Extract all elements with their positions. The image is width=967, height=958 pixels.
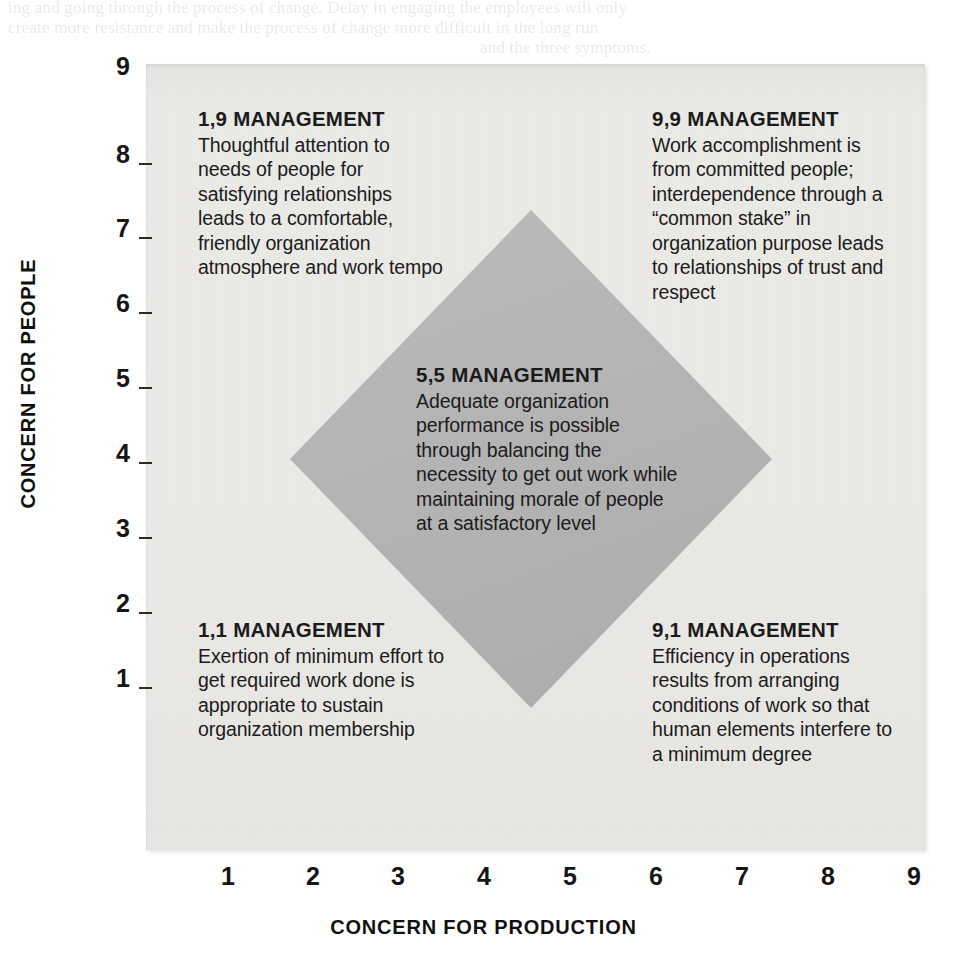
quadrant-5-5-heading: 5,5 MANAGEMENT xyxy=(416,362,684,388)
quadrant-9-9: 9,9 MANAGEMENT Work accomplishment is fr… xyxy=(652,106,902,304)
y-tick-label: 3 xyxy=(104,514,130,543)
quadrant-9-1-body: Efficiency in operations results from ar… xyxy=(652,644,902,766)
y-tick-label: 5 xyxy=(104,364,130,393)
x-tick-label: 6 xyxy=(643,862,669,891)
showthrough-line: ing and going through the process of cha… xyxy=(8,0,627,18)
quadrant-9-1-heading: 9,1 MANAGEMENT xyxy=(652,617,902,643)
y-tick-label: 8 xyxy=(104,140,130,169)
x-tick-label: 9 xyxy=(901,862,927,891)
x-tick-label: 8 xyxy=(815,862,841,891)
x-tick-label: 3 xyxy=(385,862,411,891)
y-tick-label: 4 xyxy=(104,439,130,468)
showthrough-line: create more resistance and make the proc… xyxy=(8,18,598,38)
quadrant-1-1-heading: 1,1 MANAGEMENT xyxy=(198,617,448,643)
y-tick-label: 9 xyxy=(104,52,130,81)
showthrough-line: and the three symptoms. xyxy=(480,38,651,58)
x-axis-title: CONCERN FOR PRODUCTION xyxy=(0,916,967,939)
quadrant-1-1-body: Exertion of minimum effort to get requir… xyxy=(198,644,448,742)
y-tick-label: 1 xyxy=(104,664,130,693)
quadrant-5-5: 5,5 MANAGEMENT Adequate organization per… xyxy=(416,362,684,536)
x-tick-label: 7 xyxy=(729,862,755,891)
y-tick-mark xyxy=(139,462,152,464)
quadrant-1-9-body: Thoughtful attention to needs of people … xyxy=(198,133,443,280)
x-tick-label: 4 xyxy=(471,862,497,891)
quadrant-5-5-body: Adequate organization performance is pos… xyxy=(416,389,684,536)
y-tick-label: 6 xyxy=(104,289,130,318)
quadrant-1-1: 1,1 MANAGEMENT Exertion of minimum effor… xyxy=(198,617,448,742)
y-tick-mark xyxy=(139,237,152,239)
quadrant-9-9-body: Work accomplishment is from committed pe… xyxy=(652,133,902,304)
y-tick-mark xyxy=(139,163,152,165)
y-tick-label: 7 xyxy=(104,214,130,243)
x-tick-label: 5 xyxy=(557,862,583,891)
quadrant-9-9-heading: 9,9 MANAGEMENT xyxy=(652,106,902,132)
y-tick-mark xyxy=(139,537,152,539)
y-axis-title: CONCERN FOR PEOPLE xyxy=(17,124,40,644)
y-tick-mark xyxy=(139,312,152,314)
y-tick-label: 2 xyxy=(104,589,130,618)
y-tick-mark xyxy=(139,687,152,689)
x-tick-label: 1 xyxy=(215,862,241,891)
y-tick-mark xyxy=(139,612,152,614)
quadrant-1-9-heading: 1,9 MANAGEMENT xyxy=(198,106,443,132)
y-tick-mark xyxy=(139,387,152,389)
quadrant-9-1: 9,1 MANAGEMENT Efficiency in operations … xyxy=(652,617,902,766)
x-tick-label: 2 xyxy=(300,862,326,891)
quadrant-1-9: 1,9 MANAGEMENT Thoughtful attention to n… xyxy=(198,106,443,280)
